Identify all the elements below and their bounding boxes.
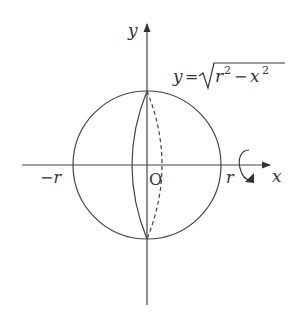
sphere-diagram: y x O −r r y = r 2 − x 2 [0,0,299,317]
svg-text:y: y [172,66,183,86]
equation-label: y = r 2 − x 2 [172,63,285,88]
svg-text:x: x [250,66,260,86]
rotation-arrow-icon [239,150,254,183]
tick-label-neg-r: −r [40,168,62,187]
tick-label-r: r [226,168,235,187]
origin-label: O [149,170,162,189]
svg-text:2: 2 [224,64,231,77]
svg-text:2: 2 [262,64,269,77]
svg-text:−: − [234,67,247,86]
svg-text:=: = [185,67,198,86]
x-axis-label: x [272,166,282,186]
y-axis-label: y [127,20,138,40]
svg-text:r: r [215,66,224,86]
